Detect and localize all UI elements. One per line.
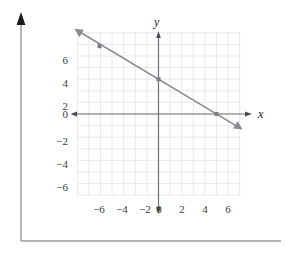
y-tick-label: −6 bbox=[56, 181, 68, 193]
x-tick-label: 2 bbox=[179, 203, 185, 215]
data-point-marker bbox=[215, 112, 219, 116]
x-axis-right-arrow-icon bbox=[245, 111, 252, 116]
data-point-marker bbox=[157, 77, 161, 81]
data-point-marker bbox=[98, 44, 102, 48]
outer-frame-up-arrow-icon bbox=[17, 12, 26, 25]
x-tick-label: −4 bbox=[116, 203, 128, 215]
x-tick-label: 4 bbox=[202, 203, 208, 215]
y-tick-labels: 6 4 2 0 −2 −4 −6 bbox=[56, 54, 68, 193]
x-tick-labels: −6 −4 −2 0 2 4 6 bbox=[93, 203, 231, 215]
y-tick-label: 0 bbox=[63, 108, 69, 120]
x-axis-left-arrow-icon bbox=[71, 112, 78, 117]
y-tick-label: 6 bbox=[63, 54, 69, 66]
x-axis-label: x bbox=[257, 107, 264, 121]
x-tick-label: −2 bbox=[139, 203, 151, 215]
x-axis: x bbox=[71, 107, 265, 121]
chart-figure: x y −6 −4 −2 0 2 4 6 6 4 2 0 −2 −4 −6 bbox=[0, 0, 285, 258]
y-tick-label: −2 bbox=[56, 135, 68, 147]
y-axis-label: y bbox=[153, 15, 160, 29]
coordinate-plane-svg: x y −6 −4 −2 0 2 4 6 6 4 2 0 −2 −4 −6 bbox=[0, 0, 285, 258]
x-tick-label: 0 bbox=[156, 203, 162, 215]
x-tick-label: 6 bbox=[225, 203, 231, 215]
x-tick-label: −6 bbox=[93, 203, 105, 215]
y-tick-label: −4 bbox=[56, 158, 68, 170]
y-tick-label: 4 bbox=[63, 77, 69, 89]
